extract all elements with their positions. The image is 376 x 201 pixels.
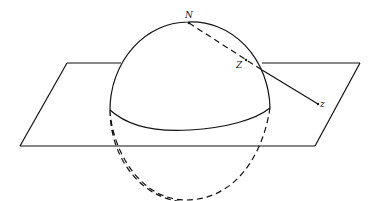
sphere-equator (110, 108, 270, 130)
label-north-pole: N (184, 10, 194, 20)
sphere-point (245, 59, 247, 61)
north-pole-point (188, 22, 191, 25)
plane (20, 63, 360, 146)
label-sphere-point: Z (235, 60, 243, 70)
plane-left-edge (20, 63, 67, 146)
sphere-lower-outline (110, 108, 270, 201)
label-plane-point: z (319, 99, 325, 109)
sphere-upper-outline (110, 22, 270, 110)
projection-line-outside (262, 70, 318, 104)
plane-point (317, 103, 319, 105)
stereographic-projection-diagram: N Z z (0, 0, 376, 201)
